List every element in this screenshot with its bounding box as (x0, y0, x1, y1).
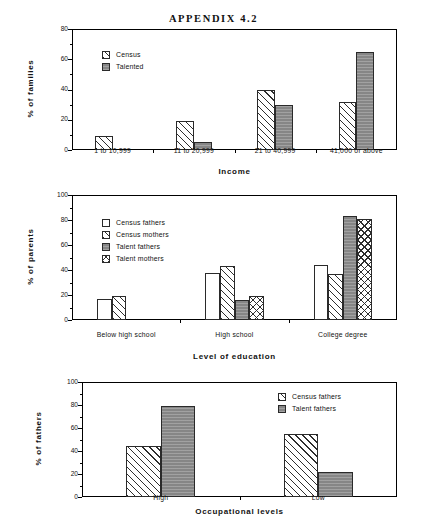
bar (112, 296, 127, 320)
y-axis-tick-label: 100 (38, 192, 68, 199)
y-axis-tick-mark (68, 120, 72, 121)
y-axis-tick-label: 40 (38, 267, 68, 274)
bar (220, 266, 235, 320)
y-axis-tick-mark (68, 220, 72, 221)
y-axis-tick-mark (68, 59, 72, 60)
x-axis-category-label: 11 to 20,999 (153, 147, 234, 154)
y-axis-tick-mark (78, 382, 82, 383)
bar (126, 446, 161, 497)
legend-item: Talent fathers (102, 242, 169, 251)
bar (161, 406, 196, 497)
bar (284, 434, 319, 497)
bar (257, 90, 275, 151)
y-axis-tick-mark (68, 195, 72, 196)
bar (176, 121, 194, 150)
bar (235, 300, 250, 320)
y-axis-tick-mark (68, 270, 72, 271)
legend-swatch-census-fathers-icon (102, 219, 110, 227)
x-axis-category-label: High school (180, 331, 288, 338)
y-axis-minor-tick-mark (80, 394, 83, 395)
y-axis-minor-tick-mark (70, 283, 73, 284)
y-axis-tick-label: 80 (48, 402, 78, 409)
y-axis-minor-tick-mark (70, 208, 73, 209)
bar (275, 105, 293, 150)
y-axis-minor-tick-mark (80, 463, 83, 464)
y-axis-tick-mark (78, 474, 82, 475)
x-axis-category-label: High (82, 494, 240, 501)
x-axis-category-label: College degree (289, 331, 397, 338)
y-axis-minor-tick-mark (70, 105, 73, 106)
occupation-chart-y-axis-label: % of fathers (34, 394, 43, 484)
bar (328, 274, 343, 320)
y-axis-minor-tick-mark (70, 308, 73, 309)
bar (249, 296, 264, 320)
y-axis-minor-tick-mark (80, 440, 83, 441)
y-axis-minor-tick-mark (70, 74, 73, 75)
x-axis-tick-mark (289, 320, 290, 323)
legend-swatch-talent-fathers-icon (102, 243, 110, 251)
legend-label: Talent fathers (116, 243, 160, 250)
legend-item: Talent mothers (102, 254, 169, 263)
x-axis-category-label: Low (240, 494, 398, 501)
y-axis-tick-label: 80 (38, 26, 68, 33)
y-axis-tick-label: 0 (38, 317, 68, 324)
y-axis-tick-label: 20 (38, 292, 68, 299)
legend-swatch-talent-mothers-icon (102, 255, 110, 263)
legend-item: Census fathers (278, 392, 341, 401)
y-axis-minor-tick-mark (70, 135, 73, 136)
legend-label: Census fathers (292, 393, 341, 400)
y-axis-tick-label: 0 (38, 147, 68, 154)
legend-item: Talented (102, 62, 144, 71)
legend-item: Census fathers (102, 218, 169, 227)
y-axis-tick-label: 60 (48, 425, 78, 432)
legend-label: Talent fathers (292, 405, 336, 412)
y-axis-tick-label: 60 (38, 56, 68, 63)
y-axis-tick-label: 100 (48, 379, 78, 386)
bar (339, 102, 357, 150)
y-axis-minor-tick-mark (80, 486, 83, 487)
bar (343, 216, 358, 320)
legend-label: Census (116, 51, 141, 58)
legend-swatch-census-icon (102, 51, 110, 59)
x-axis-category-label: Below high school (72, 331, 180, 338)
x-axis-tick-mark (180, 320, 181, 323)
bar (356, 52, 374, 150)
y-axis-tick-mark (68, 29, 72, 30)
y-axis-tick-mark (68, 320, 72, 321)
legend-swatch-talent-fathers-icon (278, 405, 286, 413)
bar (314, 265, 329, 320)
y-axis-tick-label: 80 (38, 217, 68, 224)
legend-swatch-talented-icon (102, 63, 110, 71)
bar (97, 299, 112, 320)
occupation-chart-legend: Census fathers Talent fathers (278, 392, 341, 416)
income-chart-legend: Census Talented (102, 50, 144, 74)
y-axis-tick-mark (78, 451, 82, 452)
legend-item: Census mothers (102, 230, 169, 239)
y-axis-tick-label: 20 (38, 116, 68, 123)
y-axis-tick-label: 40 (38, 86, 68, 93)
occupation-chart-x-axis-label: Occupational levels (82, 507, 397, 516)
legend-label: Talented (116, 63, 144, 70)
legend-label: Census mothers (116, 231, 169, 238)
y-axis-tick-label: 0 (48, 494, 78, 501)
legend-label: Talent mothers (116, 255, 164, 262)
bar (357, 219, 372, 320)
x-axis-category-label: 21 to 40,999 (235, 147, 316, 154)
y-axis-tick-mark (68, 90, 72, 91)
y-axis-tick-mark (68, 295, 72, 296)
y-axis-tick-mark (78, 405, 82, 406)
page-title: APPENDIX 4.2 (0, 13, 427, 24)
y-axis-minor-tick-mark (80, 417, 83, 418)
legend-swatch-census-fathers-icon (278, 393, 286, 401)
y-axis-tick-label: 60 (38, 242, 68, 249)
legend-label: Census fathers (116, 219, 165, 226)
legend-swatch-census-mothers-icon (102, 231, 110, 239)
education-chart-legend: Census fathers Census mothers Talent fat… (102, 218, 169, 266)
y-axis-tick-label: 20 (48, 471, 78, 478)
bar (205, 273, 220, 320)
legend-item: Census (102, 50, 144, 59)
legend-item: Talent fathers (278, 404, 341, 413)
y-axis-tick-mark (78, 428, 82, 429)
y-axis-tick-label: 40 (48, 448, 78, 455)
education-chart-y-axis-label: % of parents (26, 212, 35, 302)
